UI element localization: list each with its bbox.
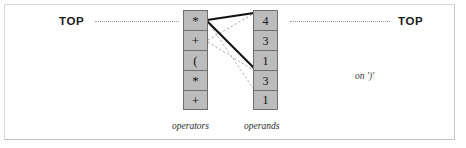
- operators-cell-4: +: [183, 90, 208, 110]
- operands-cell-1: 3: [253, 30, 278, 50]
- operands-cell-3: 3: [253, 70, 278, 90]
- annotation-on-closing-paren: on ')': [355, 72, 374, 82]
- operands-stack: 4 3 1 3 1: [253, 10, 278, 110]
- top-label-operands: TOP: [398, 16, 423, 28]
- operators-cell-3: *: [183, 70, 208, 90]
- top-label-operators: TOP: [59, 16, 84, 28]
- leader-line-right: [290, 21, 390, 23]
- operators-caption: operators: [172, 122, 209, 132]
- operators-cell-0: *: [183, 10, 208, 30]
- operands-caption: operands: [244, 122, 279, 132]
- operators-cell-1: +: [183, 30, 208, 50]
- operators-cell-2: (: [183, 50, 208, 70]
- operators-stack: * + ( * +: [183, 10, 208, 110]
- operands-cell-0: 4: [253, 10, 278, 30]
- leader-line-left: [95, 21, 179, 23]
- stack-diagram-figure: TOP TOP * + ( * + 4 3 1 3 1 operators op…: [0, 0, 466, 148]
- operands-cell-2: 1: [253, 50, 278, 70]
- operands-cell-4: 1: [253, 90, 278, 110]
